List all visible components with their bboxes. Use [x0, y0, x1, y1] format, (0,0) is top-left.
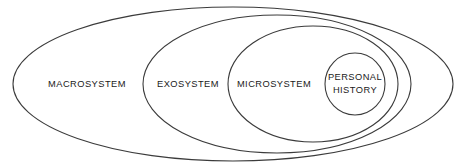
microsystem-label: MICROSYSTEM [237, 79, 311, 89]
diagram-canvas: MACROSYSTEM EXOSYSTEM MICROSYSTEM PERSON… [0, 0, 466, 167]
personal-history-ellipse [325, 53, 385, 115]
macrosystem-label: MACROSYSTEM [48, 79, 126, 89]
exosystem-label: EXOSYSTEM [157, 79, 219, 89]
personal-history-label-line-2: HISTORY [333, 85, 377, 95]
ecological-systems-diagram: MACROSYSTEM EXOSYSTEM MICROSYSTEM PERSON… [0, 0, 466, 167]
personal-history-label-line-1: PERSONAL [328, 72, 382, 82]
